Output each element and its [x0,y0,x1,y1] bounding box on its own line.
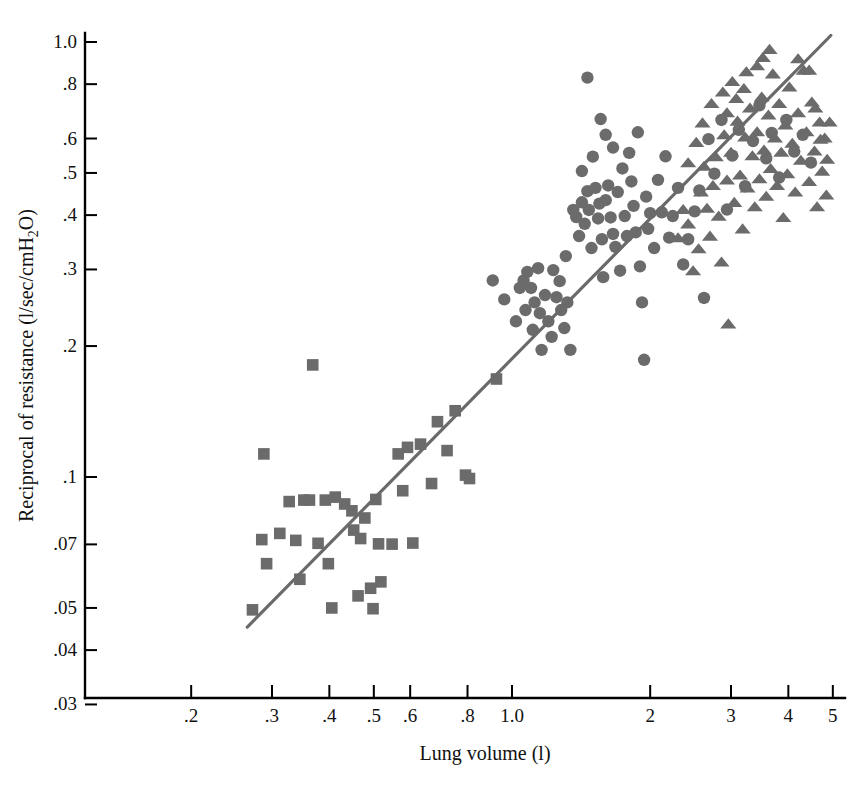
data-point-circle [573,230,585,242]
data-point-square [320,494,332,506]
data-point-circle [607,228,619,240]
data-point-circle [702,133,714,145]
data-point-circle [564,344,576,356]
y-tick-label: .5 [63,162,77,183]
data-point-triangle [699,203,715,213]
data-point-circle [688,205,700,217]
data-point-circle [634,260,646,272]
data-point-triangle [814,166,830,176]
scatter-figure: 1.0.8.6.5.4.3.2.1.07.05.04.03.2.3.4.5.6.… [0,0,861,789]
data-point-triangle [705,180,721,190]
y-tick-label: .05 [53,597,77,618]
data-point-square [407,537,419,549]
data-point-triangle [688,137,704,147]
data-point-circle [581,71,593,83]
data-point-triangle [715,86,731,96]
data-point-circle [596,233,608,245]
data-point-circle [682,233,694,245]
data-point-circle [594,113,606,125]
y-tick-label: .07 [53,533,77,554]
data-point-circle [498,293,510,305]
x-tick-label: 3 [726,705,736,726]
data-point-triangle [775,212,791,222]
data-point-circle [589,182,601,194]
data-point-square [375,576,387,588]
data-point-triangle [703,98,719,108]
data-point-square [367,603,379,615]
data-point-triangle [680,157,696,167]
data-point-square [432,416,444,428]
y-tick-label: .6 [63,128,77,149]
regression-line [247,36,831,628]
data-point-circle [659,150,671,162]
data-point-triangle [747,201,763,211]
data-point-circle [510,315,522,327]
x-tick-label: .6 [403,705,417,726]
x-tick-label: 5 [828,705,838,726]
data-point-circle [535,344,547,356]
data-point-triangle [726,197,742,207]
data-point-circle [576,165,588,177]
data-point-triangle [702,231,718,241]
y-tick-label: .2 [63,335,77,356]
data-point-triangle [809,201,825,211]
data-point-triangle [691,243,707,253]
data-point-triangle [761,44,777,54]
y-tick-label: 1.0 [53,31,77,52]
x-tick-label: 1.0 [500,705,524,726]
data-point-circle [547,264,559,276]
data-point-circle [599,129,611,141]
data-point-square [307,359,319,371]
data-point-square [402,442,414,454]
data-point-circle [585,242,597,254]
data-point-triangle [806,145,822,155]
data-point-triangle [801,176,817,186]
data-point-circle [652,174,664,186]
x-tick-label: .8 [460,705,474,726]
data-point-square [326,602,338,614]
data-point-triangle [765,68,781,78]
data-point-circle [612,186,624,198]
data-point-triangle [713,257,729,267]
data-point-circle [528,296,540,308]
y-tick-label: .8 [63,73,77,94]
x-axis-title: Lung volume (l) [419,742,550,765]
data-point-circle [558,322,570,334]
data-point-circle [521,266,533,278]
y-tick-label: .04 [53,639,77,660]
x-tick-label: .3 [265,705,279,726]
data-point-circle [636,296,648,308]
data-point-circle [539,289,551,301]
y-axis-title: Reciprocal of resistance (l/sec/cmH2O) [15,209,41,522]
data-point-circle [623,147,635,159]
data-point-triangle [787,187,803,197]
data-point-triangle [732,169,748,179]
data-point-circle [625,175,637,187]
data-point-square [312,538,324,550]
data-point-square [247,604,259,616]
data-point-triangle [784,138,800,148]
data-point-triangle [719,174,735,184]
data-point-triangle [790,107,806,117]
data-point-square [397,485,409,497]
data-point-square [426,478,438,490]
data-point-square [290,535,302,547]
data-point-triangle [720,318,736,328]
data-point-triangle [744,150,760,160]
data-point-triangle [756,144,772,154]
data-point-circle [698,292,710,304]
data-point-triangle [773,147,789,157]
data-point-circle [607,141,619,153]
data-point-circle [599,194,611,206]
data-point-circle [487,274,499,286]
data-point-square [464,473,476,485]
data-point-circle [640,190,652,202]
data-point-triangle [680,218,696,228]
data-point-triangle [804,97,820,107]
x-tick-label: 2 [645,705,655,726]
data-point-circle [648,242,660,254]
data-point-circle [583,204,595,216]
x-tick-label: 4 [784,705,794,726]
data-point-square [323,558,335,570]
x-tick-label: .5 [367,705,381,726]
